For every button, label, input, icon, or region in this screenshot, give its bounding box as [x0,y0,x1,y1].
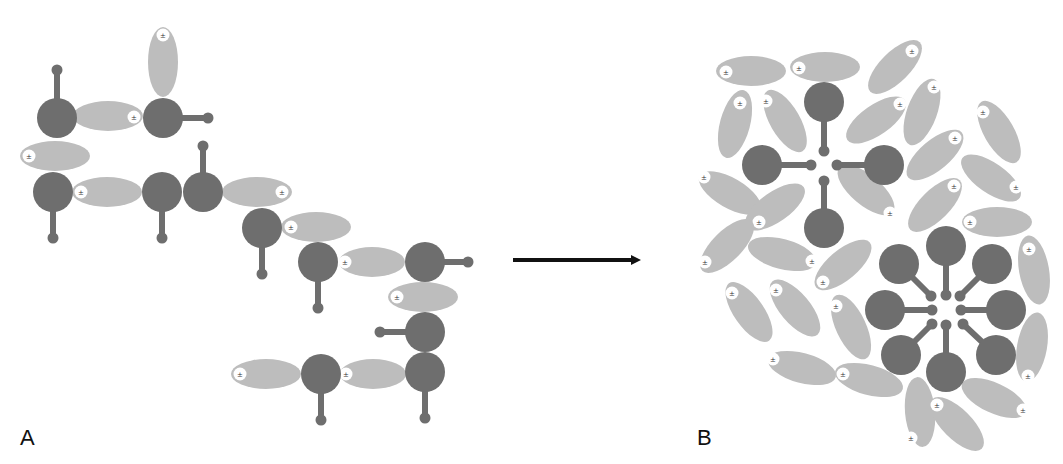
charge-glyph: ± [701,174,707,182]
polar-head [879,244,919,284]
panel-label-b: B [697,425,712,451]
tail-end [420,413,431,424]
tail-end [257,269,268,280]
amphiphile-molecule [142,172,182,244]
polar-head [183,172,223,212]
charge-glyph: ± [909,48,915,56]
polar-head [405,352,445,392]
tail-end [832,160,843,171]
charge-glyph: ± [763,98,769,106]
self-assembly-diagram: ±±±±±±±±±± ±±±±±±±±±±±±±±±±±±±±±±±±±±±± [0,0,1063,464]
amphiphile-molecule [33,172,73,244]
tail-end [958,319,969,330]
charge-glyph: ± [131,114,137,122]
amphiphile-molecule [926,226,966,301]
charge-glyph: ± [342,259,348,267]
polar-head [33,172,73,212]
tail-end [926,291,937,302]
charge-glyph: ± [723,69,729,77]
counterion: ± [231,359,301,389]
charge-glyph: ± [952,135,958,143]
charge-glyph: ± [26,153,32,161]
polar-head [804,82,844,122]
tail-end [52,65,63,76]
polar-head [865,290,905,330]
tail-end [463,257,474,268]
charge-glyph: ± [967,219,973,227]
charge-glyph: ± [820,279,826,287]
charge-glyph: ± [1025,373,1031,381]
tail-end [927,305,938,316]
polar-head [142,172,182,212]
charge-glyph: ± [78,189,84,197]
counterion: ± [281,212,351,242]
charge-glyph: ± [809,258,815,266]
charge-glyph: ± [931,84,937,92]
charge-glyph: ± [908,435,914,443]
tail-end [806,160,817,171]
polar-head [242,208,282,248]
tail-end [198,141,209,152]
counterion: ± [72,177,142,207]
charge-glyph: ± [840,371,846,379]
counterion: ± [222,177,292,207]
charge-glyph: ± [833,303,839,311]
amphiphile-molecule [405,242,474,282]
polar-head [405,312,445,352]
amphiphile-molecule [405,352,445,424]
charge-glyph: ± [237,371,243,379]
amphiphile-molecule [375,312,446,352]
tail-end [941,320,952,331]
charge-glyph: ± [343,371,349,379]
amphiphile-molecule [926,320,966,393]
tail-end [956,305,967,316]
tail-end [48,233,59,244]
charge-glyph: ± [770,356,776,364]
charge-glyph: ± [951,183,957,191]
counterion: ± [764,344,839,391]
charge-glyph: ± [702,259,708,267]
amphiphile-molecule [742,145,817,185]
amphiphile-molecule [183,141,223,213]
counterion-layer: ±±±±±±±±±±±±±±±±±±±±±±±±±±±± [692,32,1055,460]
amphiphile-molecule [804,176,844,249]
charge-glyph: ± [934,402,940,410]
charge-glyph: ± [729,290,735,298]
charge-glyph: ± [394,294,400,302]
charge-glyph: ± [160,32,166,40]
polar-head [926,352,966,392]
tail-end [927,319,938,330]
charge-glyph: ± [1020,407,1026,415]
tail-end [955,291,966,302]
amphiphile-molecule [37,65,77,139]
tail-end [157,233,168,244]
panel-a-dispersed-molecules: ±±±±±±±±±± [20,27,474,426]
charge-glyph: ± [288,224,294,232]
polar-head [143,98,183,138]
polar-head [881,335,921,375]
panel-label-a: A [20,425,35,451]
counterion: ± [962,207,1032,237]
charge-glyph: ± [756,219,762,227]
counterion: ± [716,56,786,86]
counterion: ± [388,282,458,312]
polar-head [301,354,341,394]
polar-head [986,290,1026,330]
tail-end [375,327,386,338]
polar-head [926,226,966,266]
tail-end [316,415,327,426]
tail-end [941,290,952,301]
amphiphile-molecule [804,82,844,157]
polar-head [405,242,445,282]
charge-glyph: ± [796,65,802,73]
counterion: ± [148,27,178,97]
polar-head [742,145,782,185]
amphiphile-molecule [301,354,341,426]
charge-glyph: ± [279,189,285,197]
amphiphile-molecule [242,208,282,280]
charge-glyph: ± [773,287,779,295]
counterion: ± [790,52,860,82]
polar-head [298,242,338,282]
counterion: ± [20,141,90,171]
polar-head [864,145,904,185]
